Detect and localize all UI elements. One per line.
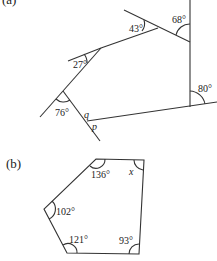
angle-43-label: 43°: [129, 23, 143, 34]
arc-76: [56, 99, 70, 102]
angle-68-label: 68°: [172, 14, 186, 25]
figure-b-label: (b): [6, 156, 21, 171]
angle-76-label: 76°: [55, 107, 69, 118]
angle-136-label: 136°: [91, 169, 110, 180]
angle-102-label: 102°: [56, 206, 75, 217]
variable-p: p: [91, 121, 97, 132]
arc-x: [134, 160, 143, 170]
left-edge-line: [40, 48, 101, 117]
variable-q: q: [84, 109, 89, 120]
angle-93-label: 93°: [119, 235, 133, 246]
arc-136: [90, 159, 105, 168]
angle-27-label: 27°: [73, 59, 87, 70]
geometry-figure: (a) 43° 68° 27° 76° 80° q p (b) 136° x 1…: [0, 0, 217, 261]
angle-x-label: x: [128, 166, 134, 177]
figure-a-label: (a): [2, 0, 16, 7]
arc-68: [176, 24, 190, 35]
figure-a: [40, 0, 217, 141]
bottom-edge-line: [87, 102, 217, 121]
angle-121-label: 121°: [69, 234, 88, 245]
angle-80-label: 80°: [198, 83, 212, 94]
